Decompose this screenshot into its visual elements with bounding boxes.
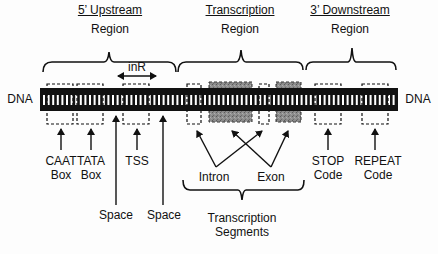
tss-label: TSS <box>125 154 148 168</box>
repeat-code-label: REPEAT Code <box>354 154 401 182</box>
upstream-region-subtitle: Region <box>91 22 129 36</box>
transcription-region-title: Transcription <box>206 3 275 17</box>
intron-label: Intron <box>199 170 230 184</box>
brace-transcription <box>178 50 303 72</box>
intron-arrow-1 <box>197 131 216 167</box>
brace-upstream <box>43 52 176 72</box>
transcription-region-subtitle: Region <box>221 22 259 36</box>
dna-label-left: DNA <box>7 92 32 106</box>
caat-label: CAAT Box <box>45 154 76 182</box>
upstream-region-title: 5’ Upstream <box>78 3 142 17</box>
space-label-2: Space <box>147 208 181 222</box>
stop-code-label: STOP Code <box>312 154 344 182</box>
transcription-segments-label: Transcription Segments <box>208 211 277 239</box>
brace-downstream <box>306 48 396 70</box>
exon-label: Exon <box>257 170 284 184</box>
downstream-region-title: 3’ Downstream <box>310 3 390 17</box>
downstream-region-subtitle: Region <box>331 22 369 36</box>
tata-label: TATA Box <box>77 154 105 182</box>
space-label-1: Space <box>99 208 133 222</box>
exon-arrow-2 <box>271 131 288 167</box>
intron-arrow-2 <box>216 131 262 167</box>
exon-arrow-1 <box>232 131 271 167</box>
gene-structure-diagram: 5’ Upstream Region Transcription Region … <box>0 0 438 254</box>
dna-label-right: DNA <box>405 92 430 106</box>
inr-label: inR <box>128 60 146 74</box>
